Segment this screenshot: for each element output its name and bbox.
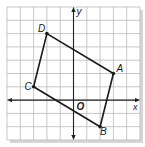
vertex-label-a: A (115, 63, 123, 74)
y-axis-label: y (76, 6, 83, 17)
grid-shadow (7, 7, 143, 143)
vertex-c-dot (32, 85, 36, 89)
vertex-a-dot (112, 72, 116, 76)
vertex-label-d: D (38, 23, 45, 34)
origin-label: O (77, 101, 85, 112)
vertex-d-dot (45, 32, 49, 36)
vertex-label-c: C (25, 81, 33, 92)
x-axis-label: x (132, 102, 138, 112)
coordinate-plane-figure: ABCDxyO (0, 0, 145, 147)
vertex-label-b: B (100, 126, 107, 137)
coordinate-plane: ABCDxyO (0, 0, 145, 147)
